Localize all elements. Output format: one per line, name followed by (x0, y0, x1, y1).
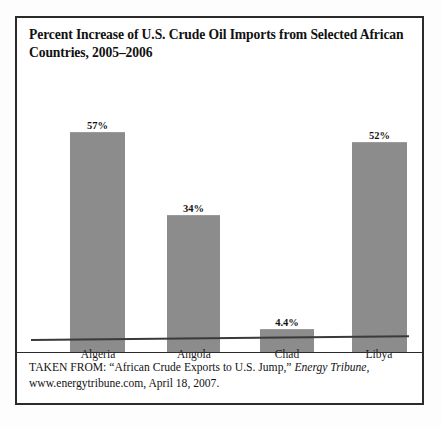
bar-algeria (70, 132, 125, 352)
page-title: Percent Increase of U.S. Crude Oil Impor… (29, 26, 411, 62)
source-publication-name: Energy Tribune (294, 361, 366, 374)
bar-libya (352, 142, 407, 352)
source-attribution: TAKEN FROM: “African Crude Exports to U.… (29, 360, 411, 392)
bar-chart-plot-area: 57% 34% 4.4% 52% Algeria Angola Chad Lib… (17, 72, 422, 352)
x-tick-label-chad: Chad (254, 348, 320, 360)
x-tick-label-angola: Angola (161, 348, 227, 360)
bar-value-chad: 4.4% (260, 317, 314, 328)
figure-frame: Percent Increase of U.S. Crude Oil Impor… (15, 16, 424, 405)
bar-value-libya: 52% (352, 130, 407, 141)
x-tick-label-algeria: Algeria (65, 348, 131, 360)
source-divider (17, 352, 422, 353)
bar-value-angola: 34% (167, 203, 220, 214)
bar-group-algeria: 57% (70, 133, 125, 352)
source-prefix-text: TAKEN FROM: “African Crude Exports to U.… (29, 361, 294, 374)
bar-group-angola: 34% (167, 216, 220, 352)
x-tick-label-libya: Libya (346, 348, 412, 360)
bar-group-libya: 52% (352, 143, 407, 352)
bar-value-algeria: 57% (70, 120, 125, 131)
bar-angola (167, 215, 220, 352)
